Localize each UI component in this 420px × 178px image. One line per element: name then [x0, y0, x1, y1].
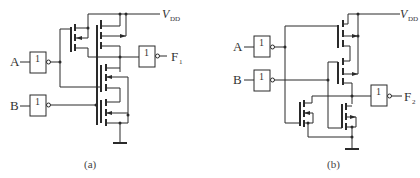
inverter-gate-a-label: 1 — [35, 53, 40, 64]
output-subscript: 1 — [179, 58, 183, 66]
circuit-b: A 1 B 1 V DD — [233, 7, 418, 171]
inversion-bubble-icon — [271, 78, 275, 82]
output-subscript: 2 — [412, 98, 416, 106]
inversion-bubble-icon — [47, 103, 51, 107]
input-label-a: A — [233, 39, 243, 54]
inverter-gate-a-label: 1 — [259, 37, 264, 48]
junction-dot — [351, 136, 354, 139]
caption-b: (b) — [327, 158, 340, 171]
input-label-b: B — [233, 72, 242, 87]
caption-a: (a) — [84, 158, 97, 171]
inverter-gate-b-label: 1 — [259, 71, 264, 82]
input-label-a: A — [10, 54, 20, 69]
inverter-gate-b-label: 1 — [35, 96, 40, 107]
inversion-bubble-icon — [271, 45, 275, 49]
input-label-b: B — [10, 98, 19, 113]
circuit-diagrams: A 1 B 1 V DD — [0, 0, 420, 178]
inversion-bubble-icon — [47, 60, 51, 64]
circuit-a: A 1 B 1 V DD — [10, 7, 183, 171]
substrate-arrow-icon — [76, 36, 82, 40]
output-gate-label: 1 — [376, 86, 381, 97]
output-gate-label: 1 — [144, 47, 149, 58]
vdd-subscript: DD — [408, 15, 418, 23]
inversion-bubble-icon — [388, 94, 392, 98]
inversion-bubble-icon — [156, 54, 160, 58]
vdd-subscript: DD — [170, 15, 180, 23]
substrate-arrow-icon — [120, 34, 126, 38]
output-label: F — [404, 89, 411, 104]
substrate-arrow-icon — [350, 115, 356, 119]
substrate-arrow-icon — [352, 72, 358, 76]
junction-dot — [87, 27, 90, 30]
output-label: F — [171, 49, 178, 64]
